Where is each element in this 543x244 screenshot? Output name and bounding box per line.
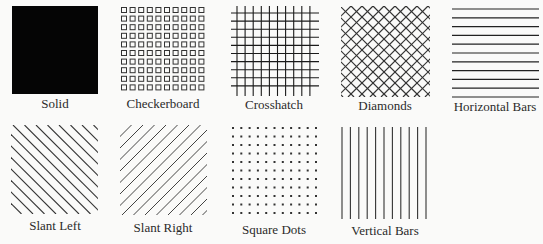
pattern-label-crosshatch: Crosshatch — [245, 98, 303, 112]
diamonds-pattern-icon — [341, 6, 430, 97]
horizontal-bars-pattern-icon — [452, 6, 539, 100]
crosshatch-pattern-icon — [231, 6, 319, 96]
pattern-label-solid: Solid — [41, 97, 68, 111]
square-dots-pattern-icon — [230, 125, 318, 217]
pattern-vertical-bars[interactable] — [339, 127, 428, 219]
pattern-slant-right[interactable] — [120, 125, 207, 215]
checkerboard-pattern-icon — [120, 6, 206, 94]
pattern-crosshatch[interactable] — [231, 6, 319, 96]
pattern-checkerboard[interactable] — [120, 6, 206, 94]
pattern-label-square-dots: Square Dots — [242, 223, 306, 237]
pattern-label-vertical-bars: Vertical Bars — [351, 224, 419, 238]
slant-right-pattern-icon — [120, 125, 207, 215]
pattern-slant-left[interactable] — [11, 125, 98, 214]
pattern-label-slant-right: Slant Right — [134, 221, 193, 235]
pattern-diamonds[interactable] — [341, 6, 430, 97]
pattern-square-dots[interactable] — [230, 125, 318, 217]
pattern-label-diamonds: Diamonds — [358, 99, 411, 113]
vertical-bars-pattern-icon — [339, 127, 428, 219]
pattern-label-horizontal-bars: Horizontal Bars — [454, 100, 537, 114]
pattern-label-slant-left: Slant Left — [29, 219, 81, 233]
pattern-solid[interactable] — [12, 6, 98, 94]
solid-fill-icon — [12, 6, 98, 94]
slant-left-pattern-icon — [11, 125, 98, 214]
pattern-horizontal-bars[interactable] — [452, 6, 539, 100]
pattern-label-checkerboard: Checkerboard — [127, 97, 200, 111]
